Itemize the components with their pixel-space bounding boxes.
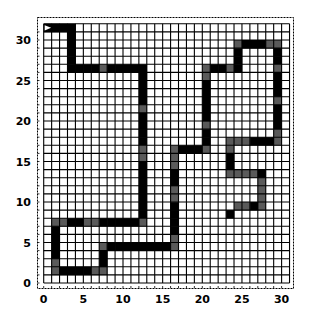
y-tick-label: 25 [16,75,31,88]
path-cell [107,218,115,226]
path-cell [91,64,99,72]
path-cell [202,97,210,105]
path-cell [274,137,282,145]
path-cell [202,105,210,113]
path-cell [171,178,179,186]
path-cell [83,64,91,72]
path-cell [139,137,147,145]
path-cell [171,226,179,234]
path-cell [99,267,107,275]
path-cell [202,64,210,72]
path-cell [83,218,91,226]
path-cell [258,170,266,178]
path-cell [274,72,282,80]
path-cell [139,64,147,72]
path-cell [274,129,282,137]
path-cell [234,40,242,48]
path-cell [202,145,210,153]
path-cell [75,218,83,226]
path-cell [202,129,210,137]
path-grid-plot: 051015202530 051015202530 [0,0,312,321]
x-tick-label: 30 [274,293,290,306]
path-cell [202,89,210,97]
path-cell [171,218,179,226]
path-cell [139,72,147,80]
path-cell [218,64,226,72]
path-cell [52,259,60,267]
path-cell [139,89,147,97]
path-cell [67,24,75,32]
path-cell [115,243,123,251]
path-cell [171,153,179,161]
path-cell [266,137,274,145]
path-cell [171,194,179,202]
path-cell [139,218,147,226]
path-cell [139,105,147,113]
path-cell [139,121,147,129]
path-cell [186,145,194,153]
x-tick-label: 25 [234,293,249,306]
path-cell [242,40,250,48]
path-cell [258,194,266,202]
path-cell [75,267,83,275]
path-cell [52,24,60,32]
path-cell [131,218,139,226]
y-tick-label: 5 [23,237,31,250]
y-tick-label: 30 [16,34,32,47]
path-cell [274,113,282,121]
path-cell [67,40,75,48]
path-cell [234,202,242,210]
y-tick-label: 20 [16,115,32,128]
path-cell [139,194,147,202]
path-cell [139,113,147,121]
path-cell [226,64,234,72]
path-cell [139,178,147,186]
path-cell [274,81,282,89]
path-cell [147,243,155,251]
path-cell [202,72,210,80]
path-cell [91,267,99,275]
path-cell [242,137,250,145]
path-cell [171,202,179,210]
path-cell [131,64,139,72]
path-cell [60,218,68,226]
x-tick-label: 20 [195,293,211,306]
path-cell [202,137,210,145]
path-cell [226,153,234,161]
path-cell [210,64,218,72]
path-cell [194,145,202,153]
path-cell [115,64,123,72]
path-cell [274,105,282,113]
path-cell [139,81,147,89]
y-tick-label: 0 [23,277,31,290]
x-tick-label: 5 [80,293,88,306]
path-cell [52,234,60,242]
path-cell [91,218,99,226]
path-cell [52,251,60,259]
path-cell [226,162,234,170]
path-cell [99,218,107,226]
path-cell [274,64,282,72]
x-tick-label: 15 [155,293,170,306]
path-cell [131,243,139,251]
path-cell [258,178,266,186]
path-cell [139,243,147,251]
path-cell [226,170,234,178]
path-cell [234,137,242,145]
path-cell [202,113,210,121]
path-cell [139,210,147,218]
path-cell [163,243,171,251]
path-cell [258,40,266,48]
path-cell [202,81,210,89]
path-cell [274,89,282,97]
x-tick-label: 10 [115,293,131,306]
path-cell [67,267,75,275]
x-tick-label: 0 [40,293,48,306]
path-cell [139,186,147,194]
path-cell [250,137,258,145]
path-cell [139,202,147,210]
path-cell [171,234,179,242]
path-cell [226,137,234,145]
path-cell [123,218,131,226]
path-cell [274,121,282,129]
